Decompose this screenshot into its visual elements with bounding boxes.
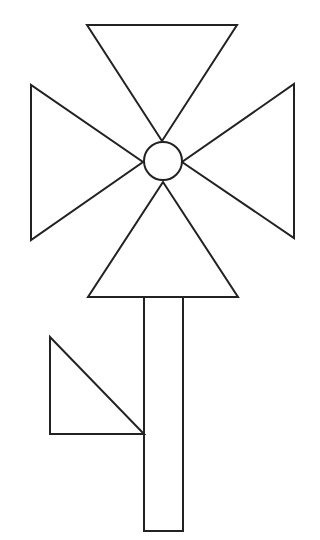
flower-diagram	[0, 0, 320, 540]
petal-right-triangle	[182, 84, 294, 238]
petal-bottom-triangle	[88, 182, 238, 297]
petal-left-triangle	[31, 85, 143, 240]
flower-center-circle	[144, 142, 182, 180]
flower-svg	[0, 0, 320, 540]
stem-rectangle	[144, 297, 183, 531]
leaf-triangle	[50, 337, 144, 434]
petal-top-triangle	[87, 25, 237, 141]
